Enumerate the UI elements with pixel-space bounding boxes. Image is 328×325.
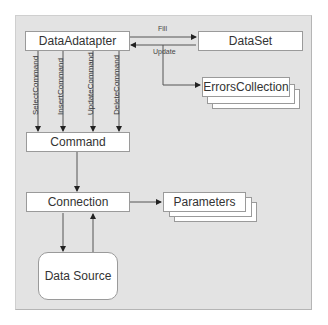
data-adapter-node: DataAdatapter: [25, 31, 130, 51]
data-source-node: Data Source: [38, 252, 118, 300]
connection-node: Connection: [26, 192, 130, 212]
parameters-node: Parameters: [163, 192, 246, 212]
dataset-node: DataSet: [198, 31, 303, 51]
fill-edge-label: Fill: [158, 25, 167, 32]
errors-collection-node: ErrorsCollection: [202, 77, 290, 97]
insert-command-label: InsertCommand: [56, 58, 65, 115]
command-node: Command: [26, 132, 130, 152]
select-command-label: SelectCommand: [31, 56, 40, 115]
update-edge-label: Update: [153, 48, 176, 55]
update-command-label: UpdateCommand: [86, 52, 95, 115]
delete-command-label: DeleteCommand: [112, 55, 121, 115]
